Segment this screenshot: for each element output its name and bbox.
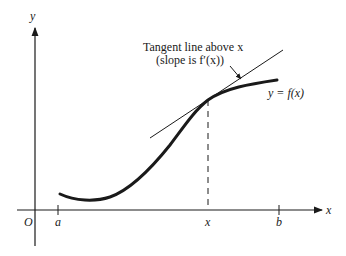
diagram-canvas: y x O a x b Tangent line above x (slope …: [0, 0, 346, 256]
annotation-line-1: Tangent line above x: [143, 40, 243, 54]
y-axis-label: y: [29, 9, 36, 23]
annotation-arrow: [230, 66, 241, 79]
tick-label-b: b: [276, 215, 282, 229]
curve-label: y = f(x): [267, 86, 304, 100]
origin-label: O: [24, 215, 33, 229]
tangent-line-diagram: y x O a x b Tangent line above x (slope …: [0, 0, 346, 256]
tick-label-a: a: [55, 215, 61, 229]
annotation-line-2: (slope is f′(x)): [156, 53, 224, 67]
x-axis-label: x: [325, 203, 332, 217]
tick-label-x: x: [204, 215, 211, 229]
curve-f: [60, 80, 277, 200]
